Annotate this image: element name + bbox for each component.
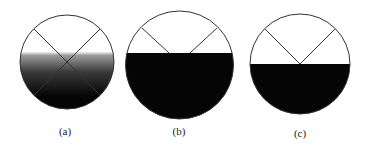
panel-a: (a) [15,15,125,138]
panel-c: (c) [245,14,357,140]
solid-fill [245,64,357,119]
line-left [265,29,300,64]
solid-fill [120,53,240,125]
panel-label-a: (a) [59,125,72,138]
panel-b: (b) [120,11,240,138]
line-right [300,29,335,64]
line-right [190,28,217,53]
line-left [142,28,169,53]
diagram-canvas: (a) (b) (c) [0,0,367,152]
panel-label-c: (c) [294,127,307,140]
gradient-fill [15,52,125,122]
panel-label-b: (b) [173,125,186,138]
